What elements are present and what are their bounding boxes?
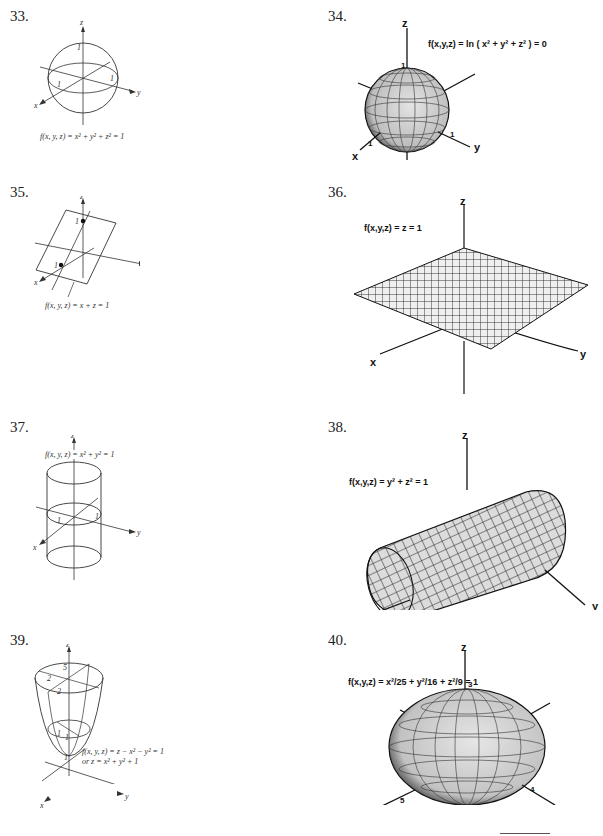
figure-40-ellipsoid-mesh: z 3 4 5	[370, 645, 570, 805]
equation-35: f(x, y, z) = x + z = 1	[45, 301, 109, 310]
svg-text:1: 1	[54, 261, 58, 270]
equation-37: f(x, y, z) = x² + y² = 1	[45, 450, 114, 459]
svg-text:5: 5	[400, 796, 405, 805]
figure-33-sphere: z y x 1 1 1	[30, 20, 150, 130]
svg-text:2: 2	[47, 674, 51, 683]
svg-text:x: x	[33, 278, 38, 287]
svg-text:5: 5	[63, 663, 67, 672]
svg-text:1: 1	[368, 139, 373, 148]
equation-38: f(x,y,z) = y² + z² = 1	[349, 477, 428, 487]
svg-text:1: 1	[450, 130, 455, 139]
equation-39-alt: or z = x² + y² + 1	[82, 757, 138, 766]
svg-text:1: 1	[57, 80, 61, 89]
equation-33: f(x, y, z) = x² + y² + z² = 1	[40, 132, 124, 141]
svg-text:y: y	[124, 792, 129, 801]
problem-number-33: 33.	[10, 8, 29, 25]
svg-text:z: z	[461, 645, 467, 653]
equation-40: f(x,y,z) = x²/25 + y²/16 + z²/9 = 1	[348, 677, 478, 687]
svg-text:1: 1	[110, 74, 114, 83]
equation-39: f(x, y, z) = z − x² − y² = 1	[82, 747, 164, 756]
figure-38-cylinder-mesh: z y x	[360, 430, 600, 610]
svg-text:y: y	[592, 600, 599, 610]
svg-text:1: 1	[95, 512, 99, 521]
problem-number-39: 39.	[10, 632, 29, 649]
problem-number-38: 38.	[328, 419, 347, 436]
svg-text:z: z	[462, 430, 468, 441]
svg-text:1: 1	[64, 753, 68, 762]
figure-39-axes-labels: y x	[40, 770, 130, 810]
svg-text:4: 4	[530, 785, 535, 794]
svg-text:y: y	[474, 141, 481, 153]
svg-text:1: 1	[401, 61, 406, 70]
svg-text:y: y	[136, 88, 141, 97]
svg-text:1: 1	[57, 729, 61, 738]
svg-text:1: 1	[75, 217, 79, 226]
svg-text:2: 2	[57, 687, 61, 696]
svg-text:x: x	[370, 356, 377, 368]
svg-text:x: x	[33, 101, 38, 110]
problem-number-34: 34.	[328, 8, 347, 25]
equation-34: f(x,y,z) = ln ( x² + y² + z² ) = 0	[428, 39, 547, 49]
svg-text:z: z	[402, 20, 408, 29]
svg-text:z: z	[79, 20, 84, 27]
equation-36: f(x,y,z) = z = 1	[364, 223, 422, 233]
problem-number-37: 37.	[10, 419, 29, 436]
svg-text:x: x	[40, 801, 44, 810]
svg-text:y: y	[136, 528, 141, 537]
problem-number-40: 40.	[328, 632, 347, 649]
svg-text:1: 1	[65, 733, 69, 742]
svg-text:1: 1	[77, 43, 81, 52]
svg-text:z: z	[460, 196, 466, 207]
figure-35-plane: z y x 1 1	[30, 196, 140, 306]
svg-text:x: x	[32, 543, 37, 552]
svg-text:y: y	[580, 348, 587, 360]
svg-text:1: 1	[57, 516, 61, 525]
problem-number-35: 35.	[10, 184, 29, 201]
svg-text:x: x	[352, 150, 359, 162]
footer-rule	[500, 833, 550, 834]
